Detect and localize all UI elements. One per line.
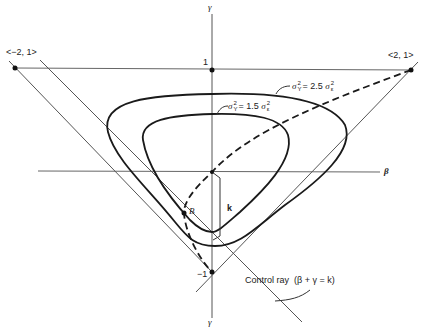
point-origin-dashed xyxy=(210,170,214,174)
gamma-axis-bottom-label: γ xyxy=(208,318,212,327)
control-ray-pointer xyxy=(275,290,310,301)
k-label: k xyxy=(227,204,232,213)
contour-outer-label: σ 2Y = 2.5 σ 2ε xyxy=(292,80,335,92)
triangle-right-edge xyxy=(196,62,418,292)
beta-axis xyxy=(38,171,380,172)
left-corner-label: <−2, 1> xyxy=(6,48,37,57)
triangle-left-edge xyxy=(9,61,212,272)
point-B-label: B xyxy=(189,207,195,216)
gamma-axis-top-label: γ xyxy=(208,3,212,12)
point-left-corner xyxy=(13,66,18,71)
inner-label-pointer xyxy=(217,106,228,114)
point-right-corner xyxy=(409,68,414,73)
point-B xyxy=(182,211,187,216)
point-gamma-minus-one xyxy=(210,270,215,275)
outer-label-pointer xyxy=(276,86,290,94)
beta-axis-label: β xyxy=(384,167,389,176)
point-gamma-one xyxy=(210,68,215,73)
diagram-canvas: γ γ β 1 −1 <−2, 1> <2, 1> B k σ 2Y = 2.5… xyxy=(0,0,422,328)
tick-minus1-label: −1 xyxy=(197,270,207,279)
tick-1-label: 1 xyxy=(203,58,208,67)
contour-inner-label: σ 2Y = 1.5 σ 2ε xyxy=(228,100,271,112)
diagram-graphics xyxy=(0,0,422,328)
control-ray-label: Control ray (β + γ = k) xyxy=(245,276,335,285)
right-corner-label: <2, 1> xyxy=(388,51,414,60)
dashed-path xyxy=(184,70,411,272)
